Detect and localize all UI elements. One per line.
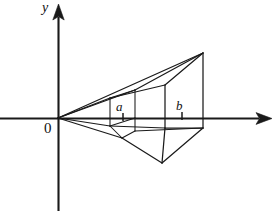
edge-a-bottom-left-to-b-bottom-left [110,126,165,128]
label-b: b [176,99,183,112]
figure-canvas [0,0,275,211]
edge-a-lower-vertex-to-b-lower-vertex [122,138,162,163]
label-a: a [116,100,123,113]
tick-marks-group [123,112,182,121]
edge-apex-to-a-top-left [58,98,110,118]
edge-b-bottom-left-to-lower-vertex [162,128,165,163]
edge-a-lower-vertex-to-bottom-right [122,131,135,138]
geometry-figure: y 0 a b [0,0,275,211]
origin-label: 0 [44,121,52,136]
edge-a-top-right-to-b-top-right [135,53,203,90]
edge-b-lower-vertex-to-bottom-right [162,128,203,163]
axes-group [0,4,272,211]
edge-a-top [110,90,135,98]
edge-b-top [165,53,203,85]
y-axis-label: y [42,1,48,15]
